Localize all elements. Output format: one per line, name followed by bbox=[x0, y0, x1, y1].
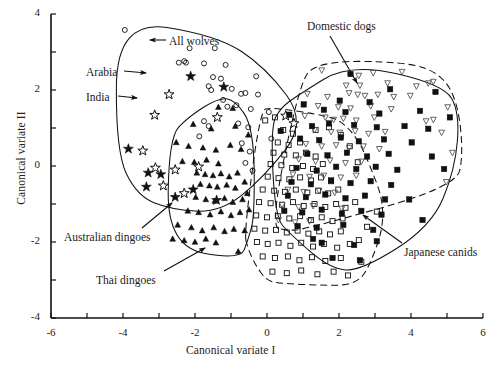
data-point bbox=[364, 154, 369, 159]
data-point bbox=[335, 105, 341, 111]
data-point bbox=[189, 224, 195, 229]
data-point bbox=[150, 163, 160, 172]
data-point bbox=[330, 255, 335, 260]
data-point bbox=[310, 236, 315, 241]
data-point bbox=[207, 212, 213, 217]
data-point bbox=[288, 243, 293, 248]
annotation-arrow-arabia bbox=[124, 71, 146, 73]
data-point bbox=[170, 165, 180, 174]
data-point bbox=[337, 98, 342, 103]
data-point bbox=[375, 92, 381, 98]
data-point bbox=[285, 254, 290, 259]
data-point bbox=[311, 244, 316, 249]
data-point bbox=[210, 172, 216, 177]
annotation-label-india: India bbox=[86, 91, 110, 103]
data-point bbox=[303, 194, 308, 199]
series-australian-dingoes bbox=[170, 104, 252, 254]
data-point bbox=[287, 216, 292, 221]
data-point bbox=[227, 142, 233, 147]
data-point bbox=[243, 160, 248, 165]
data-point bbox=[319, 207, 324, 212]
annotation-label-all-wolves: All wolves bbox=[169, 35, 219, 47]
data-point bbox=[297, 258, 302, 263]
data-point bbox=[186, 71, 196, 80]
data-point bbox=[266, 110, 271, 115]
data-point bbox=[237, 209, 243, 214]
data-point bbox=[371, 227, 376, 232]
data-point bbox=[272, 255, 277, 260]
data-point bbox=[198, 181, 204, 186]
x-axis-title: Canonical variate I bbox=[186, 344, 275, 356]
data-point bbox=[395, 167, 400, 172]
data-point bbox=[319, 240, 324, 245]
data-point bbox=[357, 83, 363, 89]
data-point bbox=[325, 94, 331, 100]
data-point bbox=[343, 109, 348, 114]
series-japanese-canids bbox=[278, 71, 453, 263]
data-point bbox=[305, 151, 310, 156]
data-point bbox=[365, 224, 370, 229]
data-point bbox=[386, 151, 391, 156]
data-point bbox=[429, 154, 434, 159]
data-point bbox=[176, 60, 181, 65]
data-point bbox=[338, 229, 343, 234]
data-point bbox=[229, 86, 234, 91]
data-point bbox=[297, 136, 302, 141]
data-point bbox=[317, 137, 322, 142]
data-point bbox=[315, 272, 320, 277]
y-tick-label: 0 bbox=[14, 158, 40, 170]
data-point bbox=[294, 165, 299, 170]
data-point bbox=[221, 97, 226, 102]
data-point bbox=[402, 123, 407, 128]
data-point bbox=[298, 175, 303, 180]
data-point bbox=[414, 84, 420, 90]
data-point bbox=[319, 68, 325, 74]
data-point bbox=[232, 185, 238, 190]
data-point bbox=[202, 171, 208, 176]
data-point bbox=[351, 122, 356, 127]
data-point bbox=[353, 173, 359, 179]
data-point bbox=[302, 113, 308, 119]
data-point bbox=[339, 211, 344, 216]
data-point bbox=[319, 215, 324, 220]
annotation-arrows bbox=[118, 36, 402, 271]
axes bbox=[51, 14, 483, 318]
data-point bbox=[321, 107, 326, 112]
x-tick-label: 4 bbox=[396, 326, 426, 338]
data-point bbox=[143, 168, 153, 177]
data-point bbox=[242, 179, 248, 184]
data-point bbox=[179, 188, 189, 197]
data-point bbox=[141, 182, 151, 191]
data-point bbox=[356, 139, 361, 144]
data-point bbox=[447, 115, 452, 120]
y-tick-label: -2 bbox=[14, 234, 40, 246]
data-point bbox=[192, 239, 198, 244]
data-point bbox=[218, 171, 224, 176]
data-point bbox=[199, 228, 205, 233]
data-point bbox=[301, 164, 306, 169]
data-point bbox=[209, 88, 214, 93]
data-point bbox=[194, 170, 200, 175]
x-tick-label: 6 bbox=[468, 326, 496, 338]
data-point bbox=[191, 159, 197, 164]
data-point bbox=[248, 107, 253, 112]
data-point bbox=[420, 217, 425, 222]
data-point bbox=[270, 269, 275, 274]
annotation-label-australian-dingoes: Australian dingoes bbox=[64, 231, 151, 243]
data-point bbox=[197, 134, 202, 139]
data-point bbox=[373, 164, 378, 169]
data-point bbox=[326, 121, 331, 126]
data-point bbox=[203, 236, 209, 241]
data-point bbox=[207, 183, 213, 188]
data-point bbox=[338, 255, 343, 260]
data-point bbox=[211, 75, 216, 80]
data-point bbox=[257, 200, 262, 205]
data-point bbox=[377, 111, 382, 116]
x-tick-label: 0 bbox=[252, 326, 282, 338]
data-point bbox=[122, 27, 127, 32]
data-point bbox=[407, 197, 412, 202]
data-point bbox=[382, 197, 387, 202]
y-tick-label: 4 bbox=[14, 6, 40, 18]
data-point bbox=[323, 192, 328, 197]
data-point bbox=[314, 168, 319, 173]
